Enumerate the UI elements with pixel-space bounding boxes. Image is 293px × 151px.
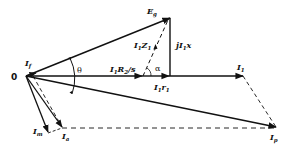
label-i1z1: I1Z1 — [133, 40, 151, 51]
label-theta: θ — [77, 66, 82, 75]
label-eg: Eg — [146, 6, 157, 18]
label-alpha: α — [155, 64, 161, 73]
label-ip: Ip — [269, 132, 278, 144]
label-i1: I1 — [236, 62, 245, 73]
label-i1r1: I1r1 — [153, 82, 170, 93]
angle-alpha — [147, 68, 151, 76]
label-ji1x: jI1x — [174, 40, 191, 51]
label-im: Im — [32, 126, 43, 137]
origin-label: 0 — [11, 72, 17, 82]
label-ia: Ia — [61, 131, 70, 142]
label-i1r2s: I1R2/s — [109, 64, 136, 75]
phasor-im — [26, 76, 48, 132]
label-if: If — [24, 58, 33, 70]
phasor-ia — [26, 76, 62, 127]
phasor-ip — [26, 76, 276, 127]
phasor-diagram: 0 Eg I1 Ip Im Ia If I1R2/s I1r1 jI1x I1Z… — [0, 0, 293, 151]
